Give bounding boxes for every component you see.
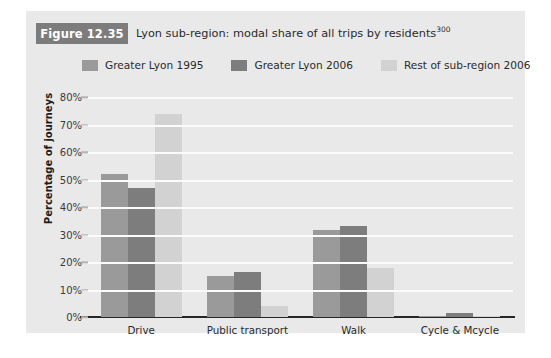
bar [101,174,128,317]
gridline [88,207,513,209]
bar [367,268,394,318]
y-axis-tick-label: 30% [60,229,82,240]
y-axis-tick [81,124,88,126]
y-axis-tick [81,151,88,153]
y-axis-title: Percentage of journeys [43,79,54,239]
gridline [88,152,513,154]
x-axis-category-label: Cycle & Mcycle [407,324,513,336]
x-axis-category-label: Drive [88,324,194,336]
bar [473,316,500,317]
gridline [88,262,513,264]
y-axis-tick [81,316,88,318]
y-axis-tick-label: 80% [60,92,82,103]
y-axis-tick-label: 40% [60,202,82,213]
bar [340,226,367,317]
y-axis-tick-label: 60% [60,147,82,158]
bar [155,114,182,318]
gridline [88,125,513,127]
bar [446,313,473,317]
bar [313,230,340,317]
figure-root: Figure 12.35 Lyon sub-region: modal shar… [0,0,551,358]
y-axis-tick [81,206,88,208]
y-axis-tick-label: 10% [60,284,82,295]
y-axis-tick-label: 0% [66,312,82,323]
gridline [88,180,513,182]
y-axis-tick-label: 50% [60,174,82,185]
bar [234,272,261,317]
gridline [88,235,513,237]
figure-panel: Figure 12.35 Lyon sub-region: modal shar… [26,11,525,333]
plot-area: DrivePublic transportWalkCycle & Mcycle … [88,97,513,317]
y-axis-tick [81,289,88,291]
y-axis-tick [81,261,88,263]
y-axis-tick [81,96,88,98]
gridline [88,290,513,292]
x-axis-category-label: Public transport [194,324,300,336]
gridline [88,97,513,99]
y-axis-tick-label: 70% [60,119,82,130]
y-axis-tick-label: 20% [60,257,82,268]
bar [419,316,446,317]
y-axis-tick [81,179,88,181]
y-axis-tick [81,234,88,236]
bar [261,306,288,317]
plot-wrapper: Percentage of journeys DrivePublic trans… [26,11,525,333]
x-axis-category-label: Walk [301,324,407,336]
bar [207,276,234,317]
